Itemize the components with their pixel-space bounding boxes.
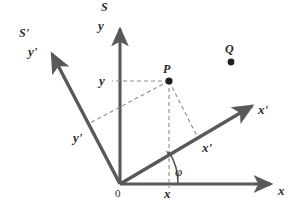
axes-group — [52, 29, 271, 184]
projection-P-to-x-prime-axis — [169, 81, 197, 136]
origin-label: 0 — [115, 188, 121, 199]
x-axis-label: x — [278, 184, 285, 197]
points-group — [165, 59, 234, 85]
diagram-canvas — [0, 0, 296, 210]
point-Q-dot — [228, 59, 235, 66]
point-Q-label: Q — [225, 43, 234, 55]
angle-phi-label: φ — [175, 165, 182, 178]
y-prime-component-label: y' — [73, 131, 82, 144]
x-prime-component-label: x' — [202, 141, 212, 154]
y-component-label: y — [99, 74, 105, 87]
frame-S-label: S — [101, 1, 108, 13]
coordinate-rotation-diagram: S S' y x y' x' y' x' y x P Q 0 φ — [0, 0, 296, 210]
y-axis-label: y — [98, 19, 104, 32]
x-prime-axis-label: x' — [258, 103, 268, 116]
y-prime-axis-label: y' — [28, 45, 37, 58]
y-prime-axis-line — [52, 54, 120, 184]
point-P-dot — [165, 77, 172, 84]
point-P-label: P — [163, 63, 170, 75]
x-component-label: x — [164, 187, 171, 200]
frame-S-prime-label: S' — [19, 27, 29, 39]
x-prime-axis-line — [120, 106, 252, 184]
